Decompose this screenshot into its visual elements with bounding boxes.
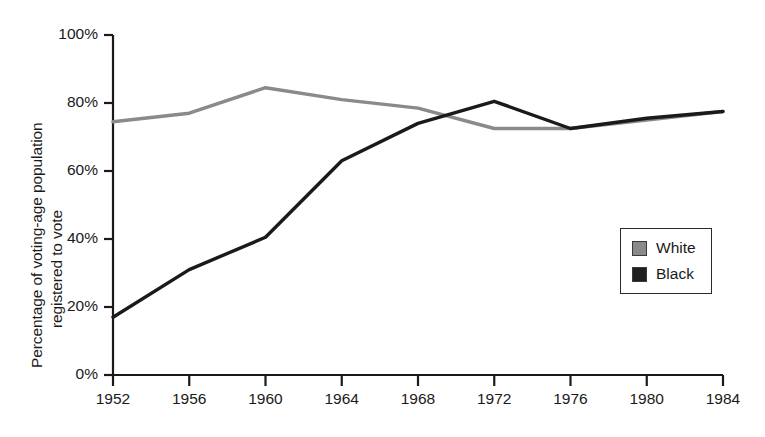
legend: White Black xyxy=(620,228,712,294)
legend-swatch-white xyxy=(632,241,647,256)
legend-swatch-black xyxy=(632,267,647,282)
line-chart: Percentage of voting-age population regi… xyxy=(0,0,765,437)
legend-item-white: White xyxy=(632,237,696,259)
legend-item-black: Black xyxy=(632,263,694,285)
plot-area xyxy=(0,0,765,437)
legend-label-black: Black xyxy=(656,266,694,282)
legend-label-white: White xyxy=(656,240,696,256)
axes xyxy=(104,35,723,386)
